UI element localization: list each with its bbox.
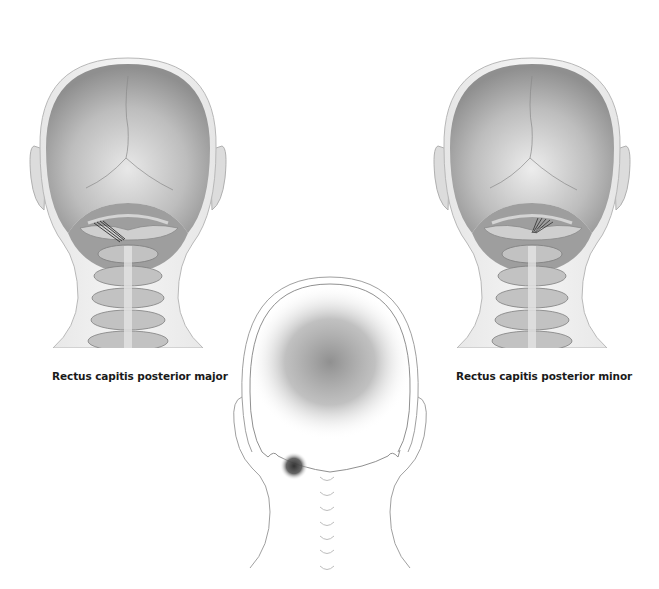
label-rectus-capitis-posterior-minor: Rectus capitis posterior minor: [456, 370, 632, 382]
head-spine-illustration-left: [28, 28, 228, 348]
referral-zone: [248, 284, 412, 440]
spinous-processes: [320, 477, 334, 570]
figure-pain-referral: [230, 272, 430, 589]
pain-referral-illustration: [230, 272, 430, 589]
label-rectus-capitis-posterior-major: Rectus capitis posterior major: [52, 370, 228, 382]
figure-rectus-capitis-posterior-minor: [432, 28, 632, 348]
trigger-point-marker: [280, 452, 308, 480]
figure-rectus-capitis-posterior-major: [28, 28, 228, 348]
head-spine-illustration-right: [432, 28, 632, 348]
